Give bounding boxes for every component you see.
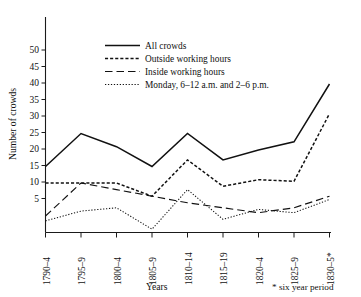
series-outside-working-hours	[46, 114, 330, 197]
x-axis-title: Years	[146, 281, 168, 292]
x-axis-ticks	[46, 233, 330, 238]
legend-label-outside-working-hours: Outside working hours	[145, 54, 231, 64]
y-tick-label: 25	[30, 128, 40, 138]
y-tick-label: 45	[30, 62, 40, 72]
y-tick-label: 10	[30, 177, 40, 187]
y-tick-label: 20	[30, 144, 40, 154]
x-tick-label: 1825–9	[290, 257, 300, 285]
y-tick-label: 40	[30, 78, 40, 88]
legend-label-all-crowds: All crowds	[145, 41, 187, 51]
footnote-text: * six year period	[272, 282, 334, 292]
y-axis-title: Number of crowds	[7, 88, 18, 160]
x-tick-label: 1815–19	[219, 252, 229, 285]
y-axis-ticks: 50 45 40 35 30 25 20 15 10 5	[30, 45, 46, 204]
y-tick-label: 30	[30, 111, 40, 121]
x-axis-tick-labels: 1790–4 1795–9 1800–4 1805–9 1810–14 1815…	[42, 252, 336, 285]
legend-label-inside-working-hours: Inside working hours	[145, 67, 225, 77]
chart-canvas: 50 45 40 35 30 25 20 15 10 5 Number of c…	[0, 0, 361, 297]
y-tick-label: 15	[30, 161, 40, 171]
chart-legend: All crowds Outside working hours Inside …	[105, 41, 269, 90]
y-tick-label: 35	[30, 95, 40, 105]
legend-label-monday-hours: Monday, 6–12 a.m. and 2–6 p.m.	[145, 80, 269, 90]
y-tick-label: 5	[34, 194, 39, 204]
x-tick-label: 1800–4	[113, 257, 123, 285]
x-tick-label: 1790–4	[42, 257, 52, 285]
x-tick-label: 1830–5*	[326, 252, 336, 285]
series-all-crowds	[46, 84, 330, 167]
x-tick-label: 1795–9	[77, 257, 87, 285]
series-inside-working-hours	[46, 183, 330, 216]
x-tick-label: 1820–4	[255, 257, 265, 285]
y-tick-label: 50	[30, 45, 40, 55]
crowds-line-chart: 50 45 40 35 30 25 20 15 10 5 Number of c…	[0, 0, 361, 297]
series-monday-hours	[46, 190, 330, 230]
x-tick-label: 1810–14	[184, 252, 194, 285]
